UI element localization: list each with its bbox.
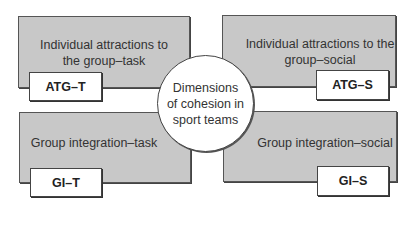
center-circle: Dimensions of cohesion in sport teams	[157, 55, 254, 152]
quadrant-gi-s-label: Group integration–social	[250, 135, 400, 151]
label-line: Individual attractions to	[18, 37, 190, 53]
tag-gi-s: GI–S	[317, 166, 389, 196]
label-line: group–social	[240, 52, 400, 68]
label-line: Group integration–task	[19, 135, 169, 151]
quadrant-gi-t-label: Group integration–task	[19, 135, 169, 151]
center-line: of cohesion in	[167, 96, 244, 112]
quadrant-atg-s-label: Individual attractions to the group–soci…	[240, 36, 400, 68]
tag-gi-t: GI–T	[30, 168, 102, 197]
label-line: Individual attractions to the	[240, 36, 400, 52]
quadrant-atg-t-label: Individual attractions to the group–task	[18, 37, 190, 69]
center-line: Dimensions	[167, 80, 244, 96]
center-line: sport teams	[167, 112, 244, 128]
tag-atg-s: ATG–S	[316, 70, 389, 100]
label-line: the group–task	[18, 53, 190, 69]
tag-atg-t: ATG–T	[29, 72, 102, 101]
label-line: Group integration–social	[250, 135, 400, 151]
